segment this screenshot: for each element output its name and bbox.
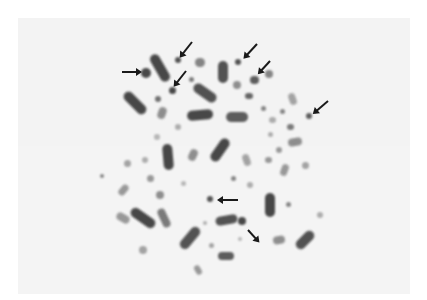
chromosome — [245, 93, 253, 99]
chromosome — [100, 174, 104, 178]
chromosome — [218, 252, 234, 260]
chromosome — [276, 147, 282, 153]
chromosome — [265, 193, 275, 217]
chromosome — [317, 212, 323, 218]
chromosome — [203, 221, 207, 225]
chromosome — [286, 202, 291, 207]
arrow-icon — [219, 199, 238, 201]
chromosome — [209, 243, 214, 248]
chromosome — [247, 182, 253, 188]
chromosome — [231, 176, 236, 181]
chromosome — [207, 196, 213, 202]
chromosome — [162, 144, 174, 171]
chromosome — [235, 59, 241, 65]
chromosome — [181, 181, 186, 186]
chromosome — [268, 132, 273, 137]
chromosome — [189, 77, 194, 82]
chromosome — [265, 70, 273, 78]
chromosome — [233, 81, 241, 89]
chromosome — [250, 76, 259, 84]
chromosome — [238, 237, 242, 241]
slide-background — [18, 18, 410, 146]
chromosome-micrograph — [0, 0, 427, 300]
chromosome — [306, 113, 312, 119]
chromosome — [139, 246, 147, 254]
chromosome — [218, 61, 228, 83]
chromosome — [124, 160, 131, 167]
chromosome — [141, 68, 151, 78]
chromosome — [156, 191, 164, 199]
chromosome — [155, 96, 161, 102]
chromosome — [280, 109, 285, 114]
chromosome — [287, 124, 294, 130]
chromosome — [265, 157, 272, 163]
chromosome — [175, 124, 181, 130]
chromosome — [269, 117, 276, 123]
chromosome — [142, 157, 148, 163]
chromosome — [226, 112, 248, 122]
arrow-icon — [122, 71, 140, 73]
chromosome — [302, 162, 309, 169]
chromosome — [195, 58, 205, 67]
chromosome — [154, 134, 160, 140]
chromosome — [261, 106, 266, 111]
chromosome — [147, 175, 154, 182]
chromosome — [238, 217, 246, 225]
